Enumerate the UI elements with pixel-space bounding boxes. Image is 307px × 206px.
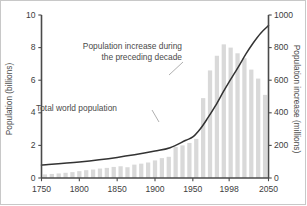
bar [194,139,198,178]
x-axis-tick-label: 1950 [173,184,213,194]
bar [153,160,157,178]
x-axis-tick-label: 2050 [249,184,289,194]
annotation-population-increase: Population increase during the preceding… [56,41,182,62]
annotation-increase-line-2: the preceding decade [56,52,182,63]
annotation-increase-line-1: Population increase during [56,41,182,52]
bar [187,143,191,178]
y-axis-right-tick-label: 600 [274,75,288,85]
y-axis-right-title: Population increase (millions) [292,39,302,159]
annotation-total-line-1: Total world population [36,103,156,114]
bar [180,145,184,178]
bar [263,95,267,178]
annotation-total-world-population: Total world population [36,103,156,114]
y-axis-left-tick-label: 8 [0,42,36,52]
bar [132,165,136,178]
bar [91,170,95,178]
x-axis-tick-label: 1800 [59,184,99,194]
bar [201,98,205,178]
annotation-leader-lines [152,62,183,122]
bar [256,79,260,178]
bar [139,164,143,178]
bar [125,167,129,178]
y-axis-left-title: Population (billions) [4,57,14,141]
x-axis-tick-label: 1750 [22,184,62,194]
bar [105,168,109,178]
y-axis-right-tick-label: 200 [274,140,288,150]
bar [84,170,88,178]
bar [77,171,81,178]
y-axis-right-tick-label: 0 [274,173,279,183]
bar [208,70,212,178]
y-axis-left-tick-label: 0 [0,173,36,183]
leader-line-increase [169,62,183,75]
bar [112,167,116,178]
population-chart-figure: Population (billions) Population increas… [0,0,307,206]
bar [229,48,233,178]
bar [215,56,219,178]
bar [222,44,226,178]
y-axis-right-tick-label: 800 [274,42,288,52]
x-axis-tick-label: 1998 [209,184,249,194]
bar [118,166,122,178]
x-axis-tick-label: 1850 [97,184,137,194]
bar [160,158,164,178]
y-axis-left-tick-label: 2 [0,140,36,150]
y-axis-right-tick-label: 1000 [274,10,293,20]
x-axis-tick-label: 1900 [135,184,175,194]
bar [249,70,253,178]
y-axis-left-tick-label: 10 [0,10,36,20]
y-axis-left-tick-label: 6 [0,75,36,85]
y-axis-right-tick-label: 400 [274,107,288,117]
bar [146,163,150,178]
bar [174,147,178,178]
bar [242,58,246,178]
bar [98,169,102,178]
bar [70,172,74,178]
y-axis-left-tick-label: 4 [0,107,36,117]
bar [167,157,171,178]
